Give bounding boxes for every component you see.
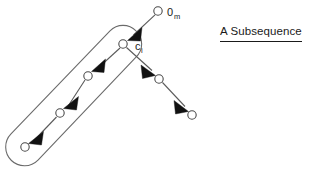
node-branch-1[interactable]: [155, 75, 163, 83]
arrowhead-n1-n2: [92, 59, 106, 73]
nodes-group: [21, 7, 196, 151]
label-origin-base: 0: [167, 6, 173, 18]
arrowhead-n3-n4: [29, 132, 44, 146]
figure-caption: A Subsequence: [220, 25, 302, 37]
label-current-subscript: i: [141, 46, 143, 55]
arrowhead-n2-n3: [64, 97, 79, 111]
edge-n5-n6: [163, 83, 186, 107]
figure-root: 0 m c i A Subsequence: [0, 0, 316, 169]
node-subsequence-3[interactable]: [56, 109, 64, 117]
node-subsequence-4[interactable]: [21, 143, 29, 151]
node-subsequence-2[interactable]: [84, 72, 92, 80]
node-branch-2[interactable]: [188, 111, 196, 119]
node-origin[interactable]: [154, 7, 162, 15]
figure-caption-underline: [220, 41, 302, 42]
node-current[interactable]: [119, 40, 127, 48]
label-origin-subscript: m: [174, 12, 180, 21]
